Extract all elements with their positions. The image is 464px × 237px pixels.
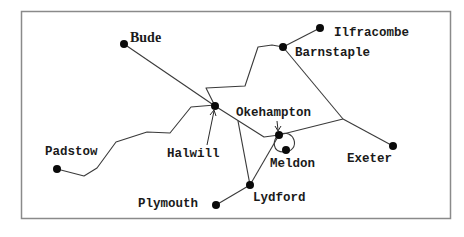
station-dot-ilfracombe[interactable] (316, 24, 324, 32)
station-dot-barnstaple[interactable] (279, 43, 287, 51)
station-dot-lydford[interactable] (246, 181, 254, 189)
label-exeter: Exeter (347, 152, 392, 166)
station-dot-okehampton[interactable] (275, 131, 283, 139)
halwill-pointer-arrow (207, 111, 214, 145)
station-dot-padstow[interactable] (53, 165, 61, 173)
station-dot-exeter[interactable] (389, 142, 397, 150)
label-halwill: Halwill (167, 147, 220, 161)
station-dot-meldon[interactable] (282, 146, 290, 154)
line-okehampton-junction (279, 119, 343, 135)
label-bude: Bude (130, 30, 161, 45)
station-dot-bude[interactable] (120, 40, 128, 48)
label-barnstaple: Barnstaple (295, 46, 370, 60)
line-barnstaple-ilfracombe (283, 28, 320, 47)
line-halwill-branch-lydford (238, 121, 250, 185)
label-plymouth: Plymouth (138, 197, 198, 211)
railway-network-diagram: Bude Ilfracombe Barnstaple Okehampton Ha… (0, 0, 464, 237)
station-dot-halwill[interactable] (211, 102, 219, 110)
label-padstow: Padstow (45, 145, 98, 159)
station-labels: Bude Ilfracombe Barnstaple Okehampton Ha… (45, 26, 409, 211)
line-halwill-barnstaple (206, 45, 283, 106)
line-lydford-plymouth (216, 185, 250, 205)
label-meldon: Meldon (270, 157, 315, 171)
label-okehampton: Okehampton (236, 106, 311, 120)
label-ilfracombe: Ilfracombe (334, 26, 409, 40)
label-lydford: Lydford (253, 191, 306, 205)
line-padstow-halwill (57, 105, 215, 176)
line-bude-halwill (124, 44, 215, 106)
station-dot-plymouth[interactable] (212, 201, 220, 209)
line-junction-exeter (343, 119, 393, 146)
